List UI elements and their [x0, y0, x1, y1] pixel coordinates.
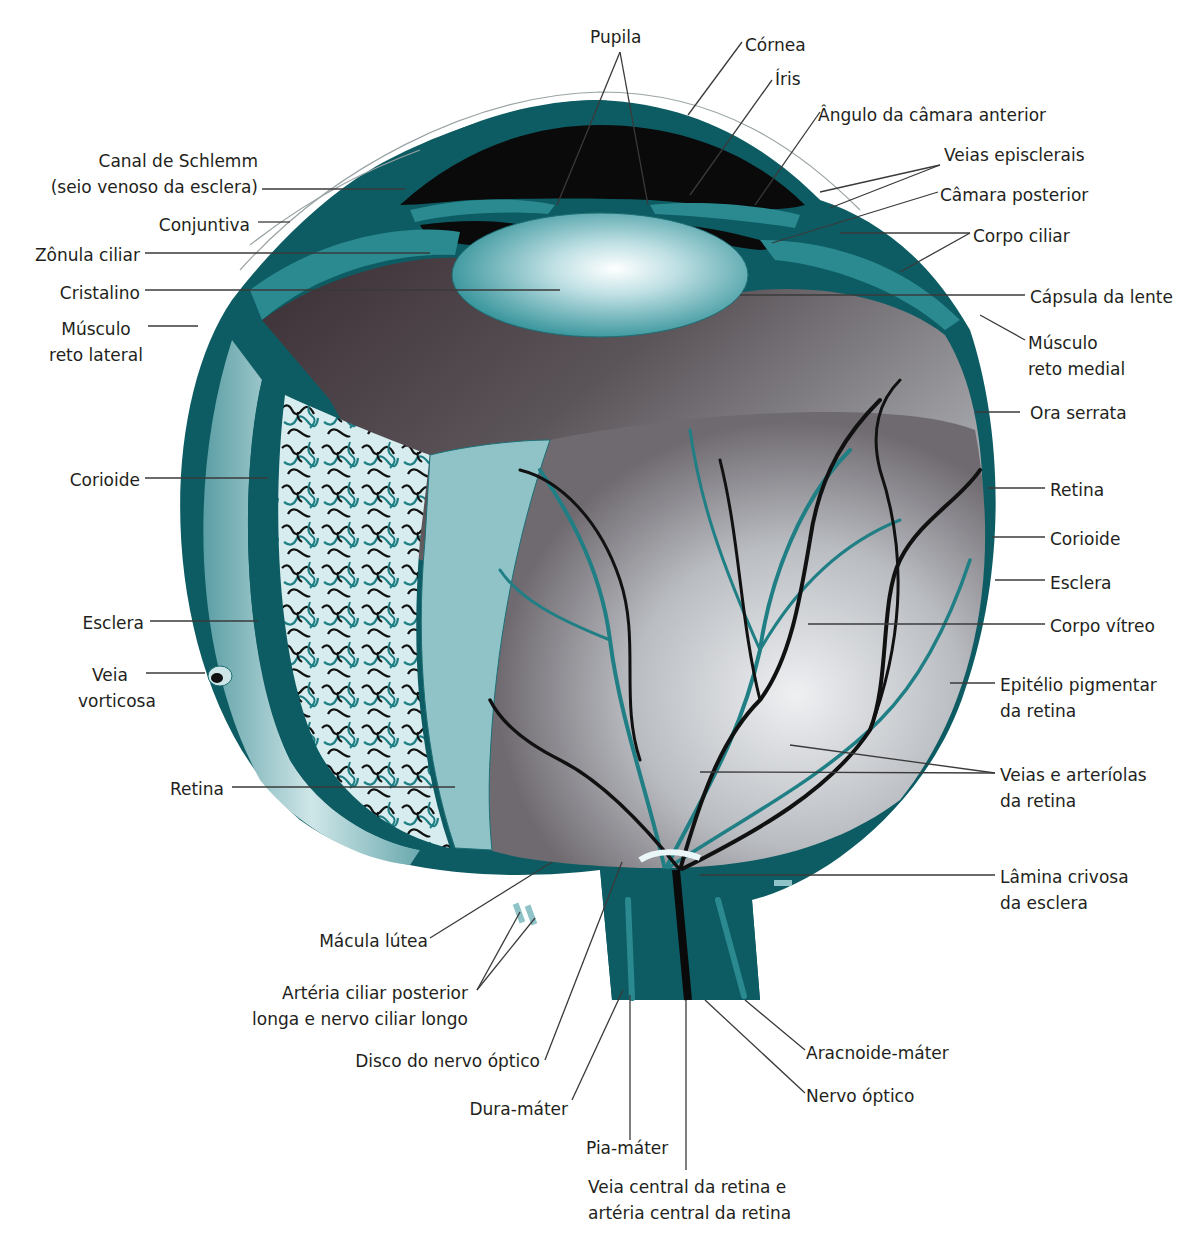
- label-ora-serrata: Ora serrata: [1030, 400, 1127, 426]
- label-arteria-ciliar-posterior: Artéria ciliar posterior longa e nervo c…: [252, 980, 468, 1032]
- label-line-1: Músculo: [48, 316, 144, 342]
- label-musculo-reto-lateral: Músculo reto lateral: [48, 316, 144, 368]
- label-retina-right: Retina: [1050, 477, 1104, 503]
- label-line-2: reto medial: [1028, 356, 1125, 382]
- label-line-2: da retina: [1000, 698, 1157, 724]
- label-line-1: Veia central da retina e: [588, 1174, 791, 1200]
- label-camara-posterior: Câmara posterior: [940, 182, 1088, 208]
- label-nervo-optico: Nervo óptico: [806, 1083, 914, 1109]
- label-dura-mater: Dura-máter: [470, 1096, 569, 1122]
- label-conjuntiva: Conjuntiva: [159, 212, 250, 238]
- label-cristalino: Cristalino: [60, 280, 140, 306]
- label-disco-nervo-optico: Disco do nervo óptico: [355, 1048, 540, 1074]
- label-aracnoide-mater: Aracnoide-máter: [806, 1040, 949, 1066]
- label-line-2: reto lateral: [48, 342, 144, 368]
- label-line-2: artéria central da retina: [588, 1200, 791, 1226]
- label-canal-schlemm: Canal de Schlemm (seio venoso da esclera…: [51, 148, 258, 200]
- lens-cristalino: [452, 213, 748, 337]
- label-line-1: Epitélio pigmentar: [1000, 672, 1157, 698]
- vitreous-body: [488, 412, 986, 868]
- label-angulo-camara-anterior: Ângulo da câmara anterior: [818, 102, 1046, 128]
- label-esclera-left: Esclera: [82, 610, 144, 636]
- label-esclera-right: Esclera: [1050, 570, 1112, 596]
- label-line-2: (seio venoso da esclera): [51, 174, 258, 200]
- label-line-2: longa e nervo ciliar longo: [252, 1006, 468, 1032]
- label-pupila: Pupila: [590, 24, 641, 50]
- label-line-1: Músculo: [1028, 330, 1125, 356]
- label-corpo-vitreo: Corpo vítreo: [1050, 613, 1155, 639]
- label-veia-central-retina: Veia central da retina e artéria central…: [588, 1174, 791, 1226]
- label-corioide-right: Corioide: [1050, 526, 1120, 552]
- label-line-1: Artéria ciliar posterior: [252, 980, 468, 1006]
- label-musculo-reto-medial: Músculo reto medial: [1028, 330, 1125, 382]
- label-retina-left: Retina: [170, 776, 224, 802]
- label-capsula-lente: Cápsula da lente: [1030, 284, 1173, 310]
- label-zonula-ciliar: Zônula ciliar: [35, 242, 140, 268]
- label-line-1: Veias e arteríolas: [1000, 762, 1147, 788]
- label-veia-vorticosa: Veia vorticosa: [78, 662, 142, 714]
- label-line-1: Canal de Schlemm: [51, 148, 258, 174]
- label-lamina-crivosa: Lâmina crivosa da esclera: [1000, 864, 1129, 916]
- label-pia-mater: Pia-máter: [586, 1135, 668, 1161]
- label-line-2: da retina: [1000, 788, 1147, 814]
- label-corioide-left: Corioide: [70, 467, 140, 493]
- label-macula-lutea: Mácula lútea: [319, 928, 428, 954]
- label-veias-episclerais: Veias episclerais: [944, 142, 1085, 168]
- label-veias-arteriolas: Veias e arteríolas da retina: [1000, 762, 1147, 814]
- label-line-2: vorticosa: [78, 688, 142, 714]
- label-line-1: Veia: [78, 662, 142, 688]
- label-iris: Íris: [775, 66, 801, 92]
- label-cornea: Córnea: [745, 32, 806, 58]
- label-line-1: Lâmina crivosa: [1000, 864, 1129, 890]
- label-corpo-ciliar: Corpo ciliar: [973, 223, 1070, 249]
- label-epitelio-pigmentar: Epitélio pigmentar da retina: [1000, 672, 1157, 724]
- label-line-2: da esclera: [1000, 890, 1129, 916]
